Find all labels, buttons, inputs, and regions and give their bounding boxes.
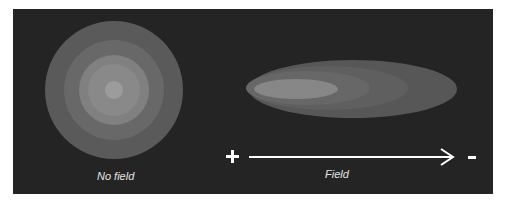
field-arrow-icon — [249, 149, 453, 165]
diagram-panel: No field Field — [13, 9, 493, 194]
plus-icon — [226, 150, 239, 163]
center-dot — [105, 81, 123, 99]
diagram-canvas — [13, 9, 493, 194]
core-ellipse — [254, 79, 338, 99]
field-caption: Field — [325, 168, 349, 180]
field-distribution — [246, 60, 457, 118]
no-field-caption: No field — [97, 170, 134, 182]
no-field-distribution — [45, 21, 183, 159]
minus-icon — [468, 156, 476, 159]
